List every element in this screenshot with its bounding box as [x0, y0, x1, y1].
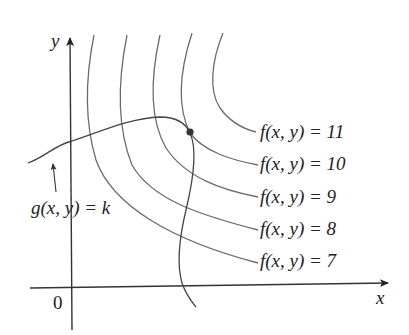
y-axis	[70, 38, 72, 330]
level-curve-f-11	[213, 33, 256, 132]
diagram-canvas: y x 0 f(x, y) = 11 f(x, y) = 10 f(x, y) …	[0, 0, 409, 335]
label-f-8: f(x, y) = 8	[260, 218, 337, 240]
level-curve-f-10	[181, 33, 258, 165]
tangent-point	[186, 128, 193, 135]
x-axis	[30, 283, 388, 288]
origin-label: 0	[53, 292, 63, 313]
level-curve-f-7	[88, 35, 259, 263]
label-f-10: f(x, y) = 10	[260, 153, 346, 175]
label-f-9: f(x, y) = 9	[260, 186, 337, 208]
constraint-pointer-arrow	[53, 164, 56, 192]
label-constraint-g: g(x, y) = k	[31, 197, 111, 219]
level-curve-f-9	[153, 35, 258, 197]
label-f-11: f(x, y) = 11	[260, 121, 344, 143]
label-f-7: f(x, y) = 7	[260, 250, 338, 272]
x-axis-label: x	[375, 287, 385, 308]
y-axis-label: y	[49, 30, 60, 51]
